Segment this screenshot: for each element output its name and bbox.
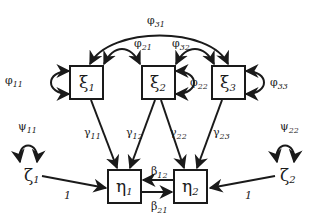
phi21-covariance-arrow: [104, 49, 140, 64]
phi31-covariance-arrow: [90, 36, 228, 65]
beta12-label: β12: [151, 165, 168, 180]
gamma11-label: γ11: [84, 126, 101, 141]
zeta1-loading-label: 1: [64, 189, 71, 202]
gamma22-label: γ22: [170, 126, 187, 141]
psi11-variance-arrow: [20, 146, 38, 163]
phi31-label: φ31: [147, 14, 165, 29]
xi3-node: ξ3: [212, 66, 245, 99]
zeta2-path-arrow: [210, 176, 275, 188]
phi11-variance-arrow: [51, 71, 69, 94]
xi2-node: ξ2: [142, 66, 175, 99]
phi33-label: φ33: [270, 76, 288, 91]
psi22-label: ψ22: [280, 120, 299, 135]
zeta2-node: ζ2: [280, 165, 296, 185]
zeta2-loading-label: 1: [245, 189, 252, 202]
gamma12-label: γ12: [126, 126, 143, 141]
phi11-label: φ11: [5, 74, 23, 89]
zeta1-path-arrow: [42, 176, 106, 188]
phi22-label: φ22: [190, 76, 208, 91]
eta1-node: η1: [108, 170, 141, 203]
psi22-variance-arrow: [277, 146, 295, 163]
gamma23-label: γ23: [213, 126, 230, 141]
path-diagram: φ31 φ21 φ32 φ11 φ22 φ33 ξ1 ξ2 ξ3 γ11 γ12…: [0, 0, 315, 224]
eta2-node: η2: [174, 170, 207, 203]
xi1-node: ξ1: [70, 66, 103, 99]
phi21-label: φ21: [134, 37, 152, 52]
psi11-label: ψ11: [18, 120, 37, 135]
beta21-label: β21: [151, 200, 168, 215]
phi33-variance-arrow: [246, 71, 264, 94]
zeta1-node: ζ1: [24, 165, 40, 185]
